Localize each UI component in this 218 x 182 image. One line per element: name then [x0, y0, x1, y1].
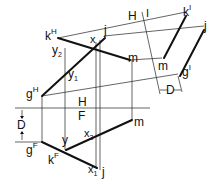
label-j1: j [204, 20, 207, 32]
label-y2: y2 [52, 44, 62, 58]
label-g1: gI [182, 66, 191, 78]
label-H-fold: H [78, 96, 87, 108]
label-F-fold: F [78, 110, 85, 122]
label-k1: kI [183, 6, 191, 18]
label-D-left: D [17, 119, 26, 131]
label-jF: j [102, 166, 105, 178]
label-gH: gH [26, 88, 38, 100]
projector-j [104, 26, 204, 36]
label-kF: kF [48, 154, 59, 166]
label-y1: y1 [68, 68, 78, 82]
label-gF: gF [26, 144, 38, 156]
label-mH: m [128, 52, 138, 64]
label-jH: j [104, 24, 107, 36]
label-x2: x2 [84, 128, 93, 141]
label-yF: y [62, 134, 68, 146]
label-xH: x [90, 34, 96, 45]
label-mF: m [134, 116, 144, 128]
label-H-aux: H [128, 10, 137, 22]
label-kH: kH [45, 30, 57, 42]
label-1-aux: I [146, 8, 149, 19]
label-m1: m [158, 60, 168, 72]
descriptive-geometry-diagram: kH j x y2 y1 m gH H I kI j m gI D H F D … [0, 0, 218, 182]
fold-line-H-1 [142, 12, 160, 94]
line-km-F [66, 120, 132, 150]
line-km-1 [164, 16, 186, 58]
label-x1: x1 [88, 164, 97, 177]
label-D-right: D [166, 84, 175, 96]
